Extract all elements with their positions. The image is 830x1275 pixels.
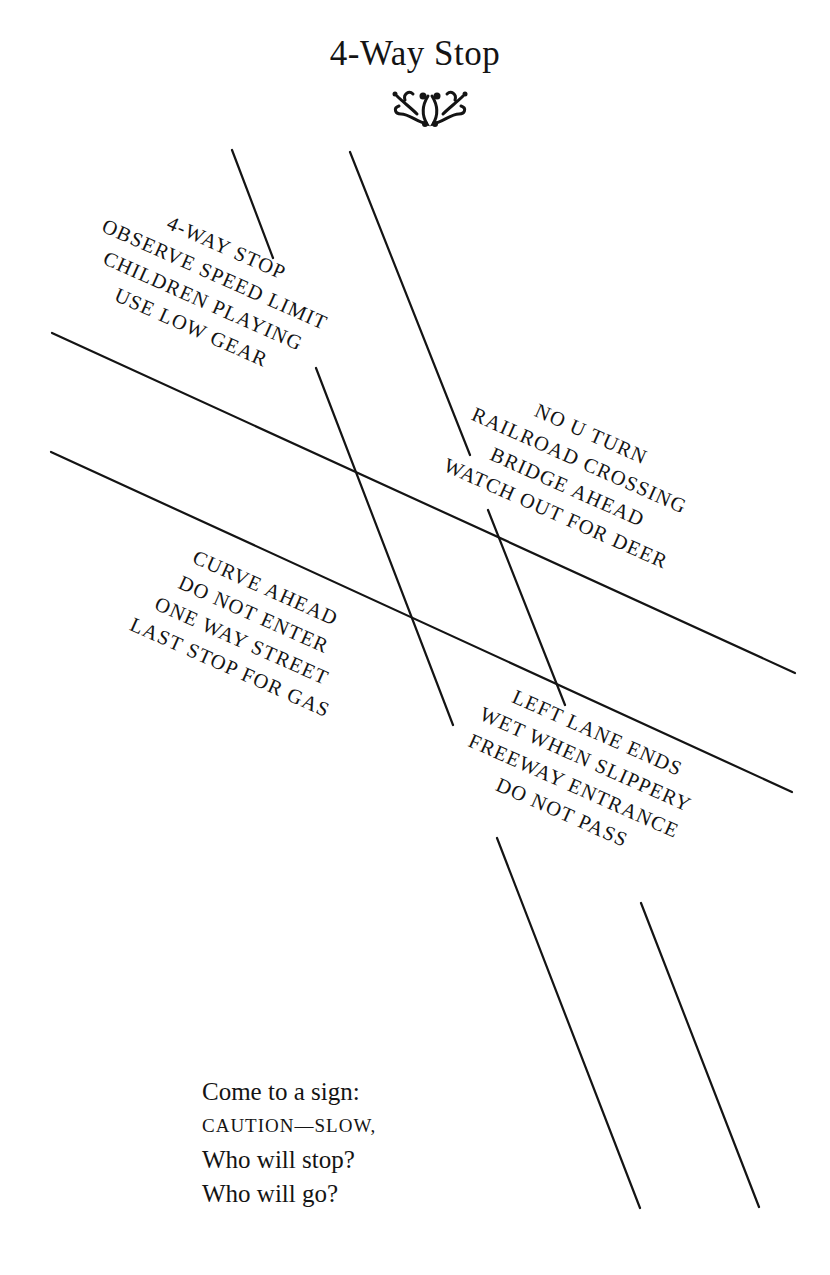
road-line (641, 903, 759, 1207)
poem-line: CAUTION—SLOW, (202, 1109, 376, 1143)
road-line (497, 838, 640, 1208)
poem-stanza: Come to a sign: CAUTION—SLOW, Who will s… (202, 1075, 376, 1211)
poem-line: Who will stop? (202, 1143, 376, 1177)
poem-line: Come to a sign: (202, 1075, 376, 1109)
poem-line: Who will go? (202, 1177, 376, 1211)
